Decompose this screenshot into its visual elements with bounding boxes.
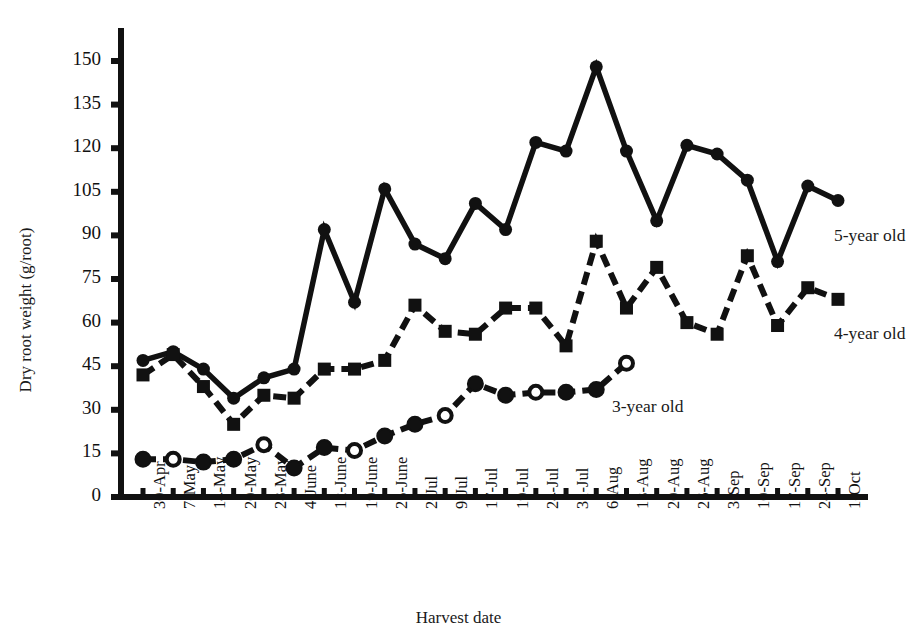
data-point-marker xyxy=(469,328,482,341)
data-point-marker xyxy=(439,252,452,265)
data-point-marker xyxy=(288,363,301,376)
data-point-marker xyxy=(590,60,603,73)
data-point-marker xyxy=(257,438,270,451)
data-point-marker xyxy=(167,348,180,361)
x-tick-label: 19-Jul xyxy=(513,468,533,509)
x-axis-title: Harvest date xyxy=(0,608,917,628)
data-point-marker xyxy=(498,388,513,403)
data-point-marker xyxy=(378,354,391,367)
data-point-marker xyxy=(469,197,482,210)
x-tick-label: 31-Jul xyxy=(573,468,593,509)
data-point-marker xyxy=(832,293,845,306)
data-point-marker xyxy=(801,281,814,294)
data-point-marker xyxy=(560,145,573,158)
data-point-marker xyxy=(832,194,845,207)
x-tick-label: 7-May xyxy=(180,465,200,509)
data-point-marker xyxy=(257,389,270,402)
data-point-marker xyxy=(650,214,663,227)
data-point-marker xyxy=(741,249,754,262)
x-tick-label: 25-June xyxy=(392,457,412,509)
data-point-marker xyxy=(197,380,210,393)
x-tick-label: 26-Aug xyxy=(694,459,714,509)
x-tick-label: 24-Jul xyxy=(543,468,563,509)
data-point-marker xyxy=(137,368,150,381)
data-point-marker xyxy=(620,145,633,158)
y-axis-title: Dry root weight (g/root) xyxy=(16,180,36,440)
x-tick-label: 20-May xyxy=(241,457,261,509)
x-tick-label: 24-Sep xyxy=(815,462,835,509)
line-chart-canvas xyxy=(0,0,917,642)
x-tick-label: 28-May xyxy=(271,457,291,509)
data-point-marker xyxy=(197,363,210,376)
chart-axes xyxy=(111,28,868,497)
data-point-marker xyxy=(801,179,814,192)
data-point-marker xyxy=(499,302,512,315)
data-point-marker xyxy=(439,325,452,338)
chart-series xyxy=(136,60,845,475)
data-point-marker xyxy=(288,392,301,405)
data-point-marker xyxy=(439,409,452,422)
x-tick-label: 12-June xyxy=(331,457,351,509)
data-point-marker xyxy=(771,319,784,332)
data-point-marker xyxy=(711,148,724,161)
data-point-marker xyxy=(559,385,574,400)
data-point-marker xyxy=(711,328,724,341)
data-point-marker xyxy=(468,376,483,391)
data-point-marker xyxy=(348,444,361,457)
y-tick-label: 45 xyxy=(43,353,101,375)
data-point-marker xyxy=(560,339,573,352)
x-tick-label: 1-Oct xyxy=(845,471,865,509)
y-tick-label: 150 xyxy=(43,48,101,70)
data-point-marker xyxy=(408,299,421,312)
x-tick-label: 3-Sep xyxy=(724,471,744,510)
y-tick-label: 105 xyxy=(43,179,101,201)
data-point-marker xyxy=(771,255,784,268)
x-tick-label: 2-Jul xyxy=(422,476,442,509)
y-tick-label: 30 xyxy=(43,397,101,419)
y-tick-label: 15 xyxy=(43,440,101,462)
data-point-marker xyxy=(407,417,422,432)
data-point-marker xyxy=(620,357,633,370)
y-tick-label: 120 xyxy=(43,135,101,157)
data-point-marker xyxy=(136,452,151,467)
x-tick-label: 17-Sep xyxy=(785,462,805,509)
series-line xyxy=(143,241,838,424)
data-point-marker xyxy=(650,261,663,274)
y-tick-label: 60 xyxy=(43,310,101,332)
data-point-marker xyxy=(378,182,391,195)
series-inline-label: 5-year old xyxy=(834,225,905,246)
data-point-marker xyxy=(227,392,240,405)
data-point-marker xyxy=(348,363,361,376)
data-point-marker xyxy=(741,174,754,187)
data-point-marker xyxy=(589,382,604,397)
data-point-marker xyxy=(257,371,270,384)
data-point-marker xyxy=(529,386,542,399)
y-tick-label: 0 xyxy=(43,484,101,506)
y-tick-label: 90 xyxy=(43,222,101,244)
data-point-marker xyxy=(377,428,392,443)
data-point-marker xyxy=(318,223,331,236)
x-tick-label: 9-Jul xyxy=(452,476,472,509)
data-point-marker xyxy=(590,235,603,248)
data-point-marker xyxy=(408,238,421,251)
data-point-marker xyxy=(529,136,542,149)
data-point-marker xyxy=(318,363,331,376)
x-tick-label: 14-May xyxy=(210,457,230,509)
series-line xyxy=(143,67,838,398)
data-point-marker xyxy=(317,440,332,455)
x-tick-label: 4-June xyxy=(301,465,321,509)
x-tick-label: 10-Sep xyxy=(754,462,774,509)
data-point-marker xyxy=(499,223,512,236)
series-inline-label: 3-year old xyxy=(612,396,683,417)
data-point-marker xyxy=(227,418,240,431)
y-tick-label: 135 xyxy=(43,92,101,114)
x-tick-label: 6-Aug xyxy=(603,467,623,509)
data-point-marker xyxy=(620,302,633,315)
series-inline-label: 4-year old xyxy=(834,323,905,344)
x-tick-label: 17-Jul xyxy=(482,468,502,509)
data-point-marker xyxy=(680,139,693,152)
x-tick-label: 30-Apr xyxy=(150,461,170,509)
data-point-marker xyxy=(680,316,693,329)
x-tick-label: 19-June xyxy=(362,457,382,509)
y-tick-label: 75 xyxy=(43,266,101,288)
